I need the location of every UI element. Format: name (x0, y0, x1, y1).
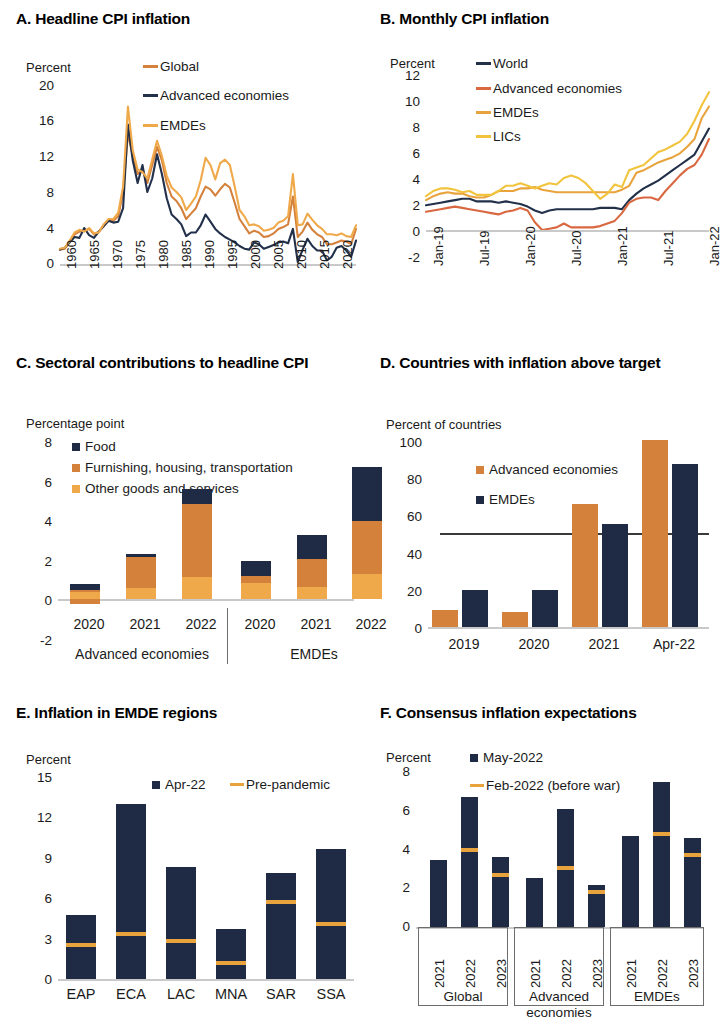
panel-e-plot (58, 776, 354, 979)
pre-pandemic-marker (66, 943, 96, 947)
panel-f-xtick: 2022 (655, 959, 670, 988)
bar (672, 464, 698, 627)
panel-a-ytick: 0 (14, 256, 54, 271)
panel-e-ytick: 3 (14, 932, 52, 947)
bar (216, 929, 246, 979)
bar (66, 915, 96, 979)
panel-f-xtick: 2022 (559, 959, 574, 988)
panel-e: E. Inflation in EMDE regions Percent Apr… (14, 700, 359, 1006)
panel-d-ytick: 60 (378, 509, 422, 524)
feb-2022-marker (653, 832, 670, 836)
panel-b-xtick: Jul-20 (569, 231, 584, 266)
panel-f-xtick: 2022 (463, 959, 478, 988)
bar (462, 590, 488, 627)
bar-segment (241, 583, 271, 599)
bar-segment (241, 561, 271, 576)
feb-2022-marker (461, 848, 478, 852)
panel-d: D. Countries with inflation above target… (378, 350, 711, 670)
legend-line-icon (143, 65, 158, 68)
bar (602, 524, 628, 627)
panel-f-title: F. Consensus inflation expectations (380, 704, 710, 723)
bar (622, 836, 639, 927)
panel-d-ytick: 20 (378, 584, 422, 599)
panel-a-xtick: 2000 (248, 240, 263, 269)
panel-e-title: E. Inflation in EMDE regions (16, 704, 352, 723)
panel-b-title: B. Monthly CPI inflation (380, 10, 700, 29)
panel-a-xtick: 2015 (317, 240, 332, 269)
bar-segment (241, 576, 271, 583)
pre-pandemic-marker (316, 922, 346, 926)
pre-pandemic-marker (166, 939, 196, 943)
panel-c-ytick: -2 (14, 633, 52, 648)
panel-a-xtick: 1995 (225, 240, 240, 269)
feb-2022-marker (588, 890, 605, 894)
bar-segment (70, 590, 100, 592)
panel-a-xtick: 1980 (156, 240, 171, 269)
bar-segment (70, 584, 100, 590)
legend-line-icon (476, 62, 491, 65)
panel-e-xtick: SSA (306, 986, 356, 1002)
bar (653, 782, 670, 927)
panel-e-ytick: 0 (14, 972, 52, 987)
panel-c-ytick: 6 (14, 475, 52, 490)
panel-e-ytick: 15 (14, 770, 52, 785)
bar (684, 838, 701, 927)
bar-segment (297, 587, 327, 599)
panel-e-xtick: LAC (156, 986, 206, 1002)
bar-segment (297, 559, 327, 587)
feb-2022-marker (684, 853, 701, 857)
bar (166, 867, 196, 979)
pre-pandemic-marker (266, 900, 296, 904)
panel-b-xtick: Jan-21 (615, 226, 630, 266)
panel-b-xtick: Jan-20 (523, 226, 538, 266)
panel-a-legend-global: Global (143, 59, 199, 74)
panel-a-xtick: 1970 (110, 240, 125, 269)
panel-b-xtick: Jul-19 (477, 231, 492, 266)
panel-f-xtick: 2023 (494, 959, 509, 988)
panel-e-ytick: 9 (14, 851, 52, 866)
panel-e-ytick: 12 (14, 810, 52, 825)
panel-f-xtick: 2023 (590, 959, 605, 988)
pre-pandemic-marker (216, 961, 246, 965)
panel-c-xtick: 2020 (233, 616, 287, 632)
panel-b-ytick: 10 (378, 94, 420, 109)
panel-d-unit-label: Percent of countries (386, 417, 502, 432)
panel-c-plot (58, 440, 354, 640)
panel-c-xtick: 2021 (289, 616, 343, 632)
panel-a-xtick: 1965 (87, 240, 102, 269)
panel-d-xtick: 2020 (502, 636, 566, 652)
panel-a-plot (60, 84, 356, 264)
panel-f-xtick: 2021 (528, 959, 543, 988)
panel-c-ytick: 8 (14, 435, 52, 450)
bar-segment (126, 557, 156, 588)
panel-f-ytick: 4 (378, 842, 410, 857)
panel-b-ytick: 0 (378, 224, 420, 239)
panel-a-unit-label: Percent (26, 60, 71, 75)
bar (316, 849, 346, 979)
panel-f: F. Consensus inflation expectations Perc… (378, 700, 711, 1006)
bar-segment (182, 577, 212, 599)
panel-e-xtick: ECA (106, 986, 156, 1002)
panel-c-ytick: 0 (14, 593, 52, 608)
panel-c-title: C. Sectoral contributions to headline CP… (16, 354, 352, 373)
panel-a-xtick: 1990 (202, 240, 217, 269)
panel-c-ytick: 4 (14, 514, 52, 529)
panel-e-xtick: SAR (256, 986, 306, 1002)
panel-b-ytick: 4 (378, 172, 420, 187)
panel-f-unit-label: Percent (386, 750, 431, 765)
panel-b-legend-world: World (476, 56, 528, 71)
panel-f-ytick: 2 (378, 880, 410, 895)
panel-f-group-label: Advanced economies (514, 989, 604, 1020)
panel-f-plot (416, 770, 704, 927)
panel-e-xtick: EAP (56, 986, 106, 1002)
panel-a-ytick: 12 (14, 149, 54, 164)
panel-b-xtick: Jan-22 (707, 226, 722, 266)
panel-c-xtick: 2022 (174, 616, 228, 632)
panel-a: A. Headline CPI inflation Percent Global… (14, 6, 359, 326)
panel-c-group-label: Advanced economies (56, 646, 228, 662)
panel-e-xtick: MNA (206, 986, 256, 1002)
panel-f-xtick: 2023 (686, 959, 701, 988)
panel-d-xtick: Apr-22 (642, 636, 706, 652)
bar (526, 878, 543, 927)
panel-d-title: D. Countries with inflation above target (380, 354, 700, 373)
